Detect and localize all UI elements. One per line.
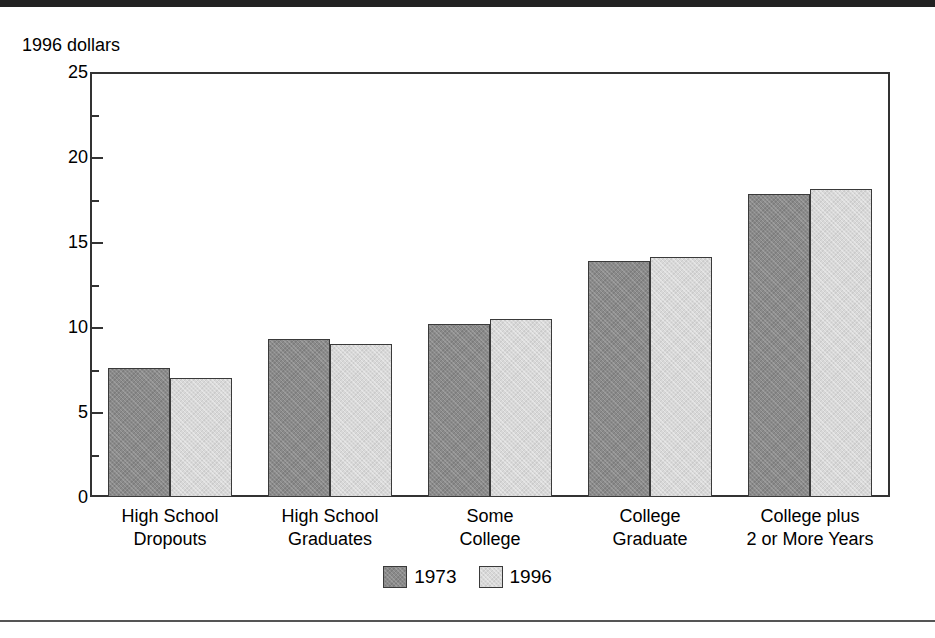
- x-axis-category-label-line: College plus: [730, 505, 890, 528]
- y-axis-tick-label: 15: [48, 232, 88, 253]
- bottom-divider-rule: [0, 620, 935, 622]
- x-axis-category-label-line: High School: [90, 505, 250, 528]
- x-axis-category-label: College plus2 or More Years: [730, 505, 890, 551]
- x-axis-category-label-line: High School: [250, 505, 410, 528]
- bar-series-1996: [650, 257, 712, 497]
- bar-series-1996: [810, 189, 872, 497]
- x-axis-category-label-line: College: [410, 528, 570, 551]
- y-axis-tick-label: 5: [48, 402, 88, 423]
- y-axis-tick-labels: 0510152025: [0, 72, 88, 497]
- bar-series-1973: [268, 339, 330, 497]
- bar-series-1973: [428, 324, 490, 497]
- bar-series-1973: [588, 261, 650, 497]
- y-axis-tick-label: 0: [48, 487, 88, 508]
- top-divider-rule: [0, 0, 935, 7]
- bar-series-1996: [490, 319, 552, 498]
- bar-series-1973: [748, 194, 810, 497]
- x-axis-category-label-line: Graduates: [250, 528, 410, 551]
- legend-swatch: [383, 566, 407, 588]
- legend-item: 1973: [383, 566, 456, 588]
- bar-series-1996: [170, 378, 232, 497]
- x-axis-category-label: SomeCollege: [410, 505, 570, 551]
- figure-container: 1996 dollars 0510152025 High SchoolDropo…: [0, 0, 935, 638]
- x-axis-category-label: High SchoolDropouts: [90, 505, 250, 551]
- x-axis-category-label-line: Some: [410, 505, 570, 528]
- x-axis-category-label-line: Dropouts: [90, 528, 250, 551]
- y-axis-tick-label: 20: [48, 147, 88, 168]
- y-axis-tick-label: 10: [48, 317, 88, 338]
- legend-label: 1973: [414, 566, 456, 588]
- bar-series-1996: [330, 344, 392, 497]
- legend-item: 1996: [479, 566, 552, 588]
- bar-series-layer: [90, 72, 890, 497]
- x-axis-category-label-line: College: [570, 505, 730, 528]
- x-axis-category-label: High SchoolGraduates: [250, 505, 410, 551]
- bar-series-1973: [108, 368, 170, 497]
- chart-legend: 19731996: [0, 566, 935, 588]
- legend-label: 1996: [510, 566, 552, 588]
- x-axis-category-label-line: 2 or More Years: [730, 528, 890, 551]
- y-axis-tick-label: 25: [48, 62, 88, 83]
- legend-swatch: [479, 566, 503, 588]
- x-axis-category-label: CollegeGraduate: [570, 505, 730, 551]
- x-axis-category-label-line: Graduate: [570, 528, 730, 551]
- y-axis-title: 1996 dollars: [22, 35, 120, 56]
